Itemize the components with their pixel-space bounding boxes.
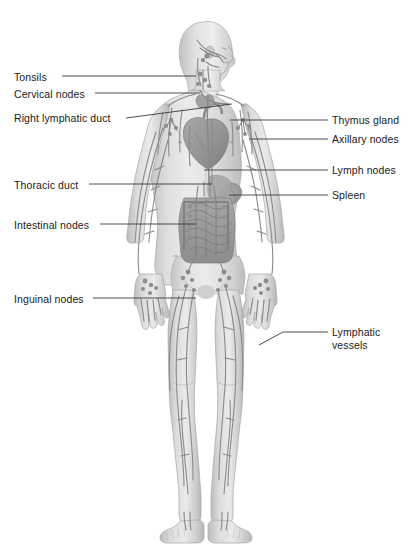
hand-right-shape	[241, 274, 277, 329]
human-figure-illustration	[0, 0, 409, 551]
label-thymus-gland: Thymus gland	[332, 114, 399, 127]
label-spleen: Spleen	[332, 189, 365, 202]
label-intestinal-nodes: Intestinal nodes	[14, 219, 89, 232]
leader-lymphatic-vessels	[259, 332, 328, 345]
groin-shade	[197, 285, 215, 299]
foot-right-shape	[208, 520, 252, 543]
label-thoracic-duct: Thoracic duct	[14, 179, 78, 192]
label-tonsils: Tonsils	[14, 71, 47, 84]
leg-right-shape	[211, 290, 244, 523]
lymphatic-system-diagram: Tonsils Cervical nodes Right lymphatic d…	[0, 0, 409, 551]
leg-left-shape	[168, 290, 201, 523]
label-lymphatic-vessels-line2: vessels	[332, 339, 380, 352]
foot-left-shape	[160, 520, 204, 543]
label-lymphatic-vessels: Lymphatic vessels	[332, 326, 380, 351]
label-axillary-nodes: Axillary nodes	[332, 133, 399, 146]
label-inguinal-nodes: Inguinal nodes	[14, 293, 84, 306]
label-cervical-nodes: Cervical nodes	[14, 88, 85, 101]
label-right-lymphatic-duct: Right lymphatic duct	[14, 112, 111, 125]
label-lymph-nodes: Lymph nodes	[332, 164, 396, 177]
label-lymphatic-vessels-line1: Lymphatic	[332, 326, 380, 339]
